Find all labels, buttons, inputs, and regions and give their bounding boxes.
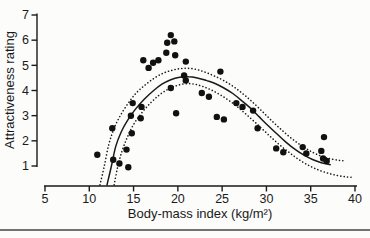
scatter-point	[206, 94, 212, 100]
scatter-point	[128, 113, 134, 119]
x-tick-label: 20	[171, 192, 185, 206]
scatter-point	[303, 150, 309, 156]
scatter-point	[254, 125, 260, 131]
scatter-point	[123, 146, 129, 152]
scatter-point	[140, 57, 146, 63]
x-tick-label: 40	[348, 192, 362, 206]
y-tick-label: 5	[22, 59, 29, 73]
y-tick-label: 2	[22, 134, 29, 148]
scatter-point	[94, 152, 100, 158]
y-tick-label: 4	[22, 84, 29, 98]
scatter-point	[300, 144, 306, 150]
scatter-point	[280, 149, 286, 155]
x-tick-label: 25	[215, 192, 229, 206]
fit-curve	[107, 77, 330, 185]
scatter-point	[116, 160, 122, 166]
confidence-band-lower	[114, 84, 351, 185]
y-axis-label: Attractiveness rating	[2, 31, 17, 149]
y-tick-label: 1	[22, 159, 29, 173]
y-tick-label: 3	[22, 109, 29, 123]
scatter-point	[171, 38, 177, 44]
scatter-point	[183, 58, 189, 64]
scatter-point	[138, 104, 144, 110]
scatter-point	[321, 134, 327, 140]
scatter-point	[164, 40, 170, 46]
scatter-point	[324, 158, 330, 164]
scatter-point	[168, 32, 174, 38]
scatter-point	[145, 65, 151, 71]
x-tick-label: 35	[304, 192, 318, 206]
scatter-point	[239, 104, 245, 110]
scatter-point	[130, 100, 136, 106]
x-tick-label: 30	[259, 192, 273, 206]
x-axis-label: Body-mass index (kg/m²)	[128, 206, 272, 221]
x-axis: 510152025303540	[42, 186, 362, 206]
scatter-point	[214, 114, 220, 120]
scatter-point	[173, 110, 179, 116]
scatter-point	[199, 90, 205, 96]
scatter-point	[138, 115, 144, 121]
scatter-point	[163, 50, 169, 56]
y-axis: 1234567	[22, 8, 37, 173]
scatter-point	[273, 145, 279, 151]
scatter-point	[233, 100, 239, 106]
x-tick-label: 10	[82, 192, 96, 206]
y-tick-label: 7	[22, 8, 29, 22]
scatter-point	[250, 107, 256, 113]
confidence-band-upper	[100, 68, 346, 185]
scatter-point	[129, 130, 135, 136]
x-tick-label: 15	[127, 192, 141, 206]
scatter-point	[110, 157, 116, 163]
scatter-point	[183, 77, 189, 83]
scatter-point	[155, 57, 161, 63]
scatter-point	[221, 116, 227, 122]
scatter-point	[318, 148, 324, 154]
scatter-point	[172, 52, 178, 58]
scatter-point	[217, 68, 223, 74]
y-tick-label: 6	[22, 33, 29, 47]
scatter-point	[125, 164, 131, 170]
figure-scatterplot: 1234567510152025303540 Attractiveness ra…	[0, 0, 370, 238]
scatter-point	[168, 85, 174, 91]
x-tick-label: 5	[42, 192, 49, 206]
bmi-attractiveness-plot: 1234567510152025303540 Attractiveness ra…	[0, 0, 370, 238]
scatter-point	[109, 125, 115, 131]
